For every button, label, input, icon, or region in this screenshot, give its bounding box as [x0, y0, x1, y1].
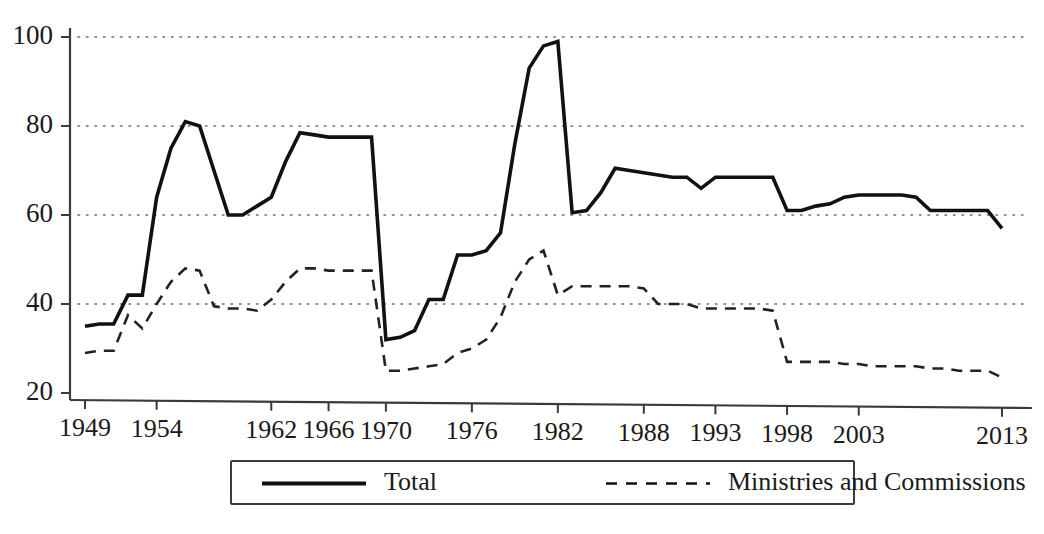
- y-axis-tick-labels: 20406080100: [13, 20, 54, 406]
- x-axis-tick-labels: 1949195419621966197019761982198819931998…: [59, 413, 1028, 450]
- chart-figure: 20406080100 1949195419621966197019761982…: [0, 0, 1044, 534]
- gridlines: [78, 37, 1030, 304]
- x-axis-line: [70, 400, 1032, 408]
- line-chart: 20406080100 1949195419621966197019761982…: [0, 0, 1044, 534]
- legend-label-total: Total: [384, 467, 437, 496]
- series-line-ministries-and-commissions: [85, 251, 1002, 378]
- y-tick-label-20: 20: [26, 376, 53, 406]
- legend-label-ministries-and-commissions: Ministries and Commissions: [728, 467, 1026, 496]
- x-tick-label-1949: 1949: [59, 413, 111, 442]
- x-axis: [70, 400, 1032, 417]
- x-tick-label-1976: 1976: [446, 416, 498, 445]
- x-tick-label-1966: 1966: [303, 415, 355, 444]
- data-series-layer: [85, 41, 1002, 377]
- x-tick-label-1988: 1988: [618, 418, 670, 447]
- x-tick-label-1982: 1982: [532, 417, 584, 446]
- y-tick-label-40: 40: [26, 287, 53, 317]
- y-tick-label-100: 100: [13, 20, 54, 50]
- x-tick-label-1970: 1970: [360, 416, 412, 445]
- y-tick-label-60: 60: [26, 198, 53, 228]
- series-line-total: [85, 41, 1002, 339]
- chart-legend: TotalMinistries and Commissions: [231, 461, 1026, 504]
- x-tick-label-2013: 2013: [976, 421, 1028, 450]
- y-tick-label-80: 80: [26, 109, 53, 139]
- y-axis: [61, 28, 70, 400]
- x-tick-label-1962: 1962: [245, 415, 297, 444]
- x-tick-label-1993: 1993: [689, 418, 741, 447]
- x-tick-label-1954: 1954: [131, 414, 183, 443]
- x-tick-label-2003: 2003: [833, 420, 885, 449]
- x-tick-label-1998: 1998: [761, 419, 813, 448]
